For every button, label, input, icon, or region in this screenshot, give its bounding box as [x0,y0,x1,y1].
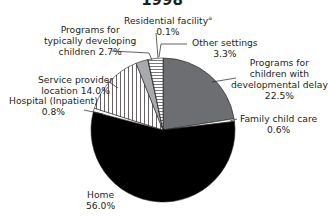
label-value: 0.8% [42,106,65,117]
footnote-marker: a [208,14,212,21]
label-value: 56.0% [86,200,115,211]
label-text: Home [87,189,114,200]
label-residential-facility: Residential facilitya 0.1% [124,12,212,37]
pie-slice-programs-for-children-with-developmental-delay [163,58,234,130]
label-text: Programs for [250,57,309,68]
label-home: Home 56.0% [86,189,115,211]
label-value: 0.1% [156,26,179,37]
label-text: Programs for [61,24,120,35]
label-text: developmental delay [231,79,328,90]
label-value: children 2.7% [59,46,122,57]
label-text: typically developing [44,35,136,46]
label-text: children with [250,68,309,79]
label-family-child-care: Family child care 0.6% [240,113,317,135]
label-text: Hospital (Inpatient) [9,95,98,106]
label-developmental-delay: Programs for children with developmental… [231,57,328,101]
label-text: Family child care [240,113,317,124]
label-text: Residential facility [124,15,208,26]
label-value: 0.6% [267,124,290,135]
label-text: Other settings [192,37,258,48]
label-hospital: Hospital (Inpatient) 0.8% [9,95,98,117]
label-text: Service provider [38,74,113,85]
label-service-provider: Service provider location 14.0% [38,74,113,96]
label-other-settings: Other settings 3.3% [192,37,258,59]
label-typically-developing: Programs for typically developing childr… [44,24,136,57]
label-value: 22.5% [265,90,294,101]
